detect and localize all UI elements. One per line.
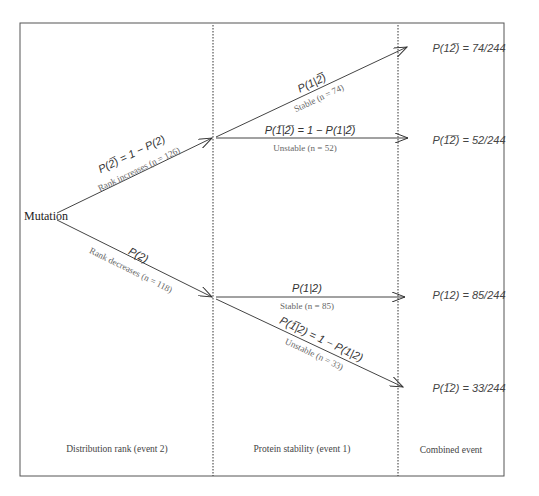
outcome-1: P(12̅) = 74/244 xyxy=(432,42,505,54)
branch-2-prob: P(2) xyxy=(127,245,151,265)
column-label-combined-event: Combined event xyxy=(420,445,483,455)
branch-5-prob: P(1|2) xyxy=(292,282,322,294)
branch-4-desc: Unstable (n = 52) xyxy=(273,143,336,153)
column-label-protein-stability: Protein stability (event 1) xyxy=(254,444,351,455)
column-label-distribution-rank: Distribution rank (event 2) xyxy=(66,444,168,455)
outcome-4: P(1̅2) = 33/244 xyxy=(432,382,505,394)
branch-5-desc: Stable (n = 85) xyxy=(280,301,334,311)
branch-unstable-given-decrease xyxy=(216,299,403,387)
outcome-2: P(1̅2̅) = 52/244 xyxy=(432,134,505,146)
outcome-3: P(12) = 85/244 xyxy=(432,289,505,301)
probability-tree-diagram: Mutation P(2̅) = 1 − P(2) Rank increases… xyxy=(0,0,539,496)
branch-4-prob: P(1̅|2̅) = 1 − P(1|2̅) xyxy=(265,124,356,136)
